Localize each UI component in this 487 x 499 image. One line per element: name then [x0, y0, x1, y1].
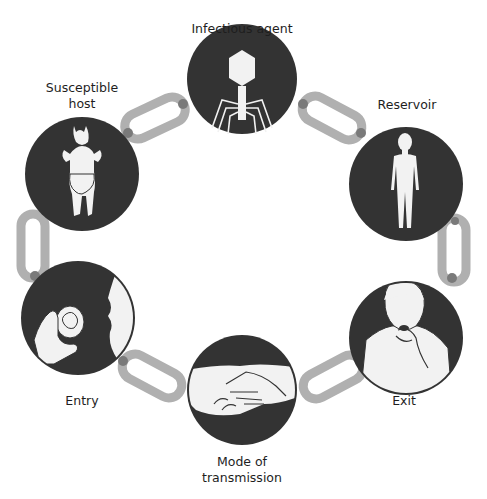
chain-link-reservoir-exit: [442, 218, 466, 282]
chain-link-entry-host: [21, 214, 45, 278]
label-entry: Entry: [65, 393, 98, 409]
node-mode-of-transmission: [186, 335, 300, 445]
chain-link-agent-reservoir: [298, 91, 367, 144]
label-mode-of-transmission: Mode of transmission: [202, 454, 282, 486]
node-reservoir: [349, 127, 463, 241]
chain-link-mode-entry: [118, 349, 187, 402]
label-reservoir: Reservoir: [378, 97, 437, 113]
node-infectious-agent: [187, 24, 297, 134]
node-susceptible-host: [25, 117, 139, 231]
chain-of-infection-diagram: [0, 0, 487, 499]
label-exit: Exit: [392, 393, 416, 409]
label-infectious-agent: Infectious agent: [191, 21, 292, 37]
label-susceptible-host: Susceptible host: [46, 80, 118, 112]
node-exit: [349, 280, 463, 400]
